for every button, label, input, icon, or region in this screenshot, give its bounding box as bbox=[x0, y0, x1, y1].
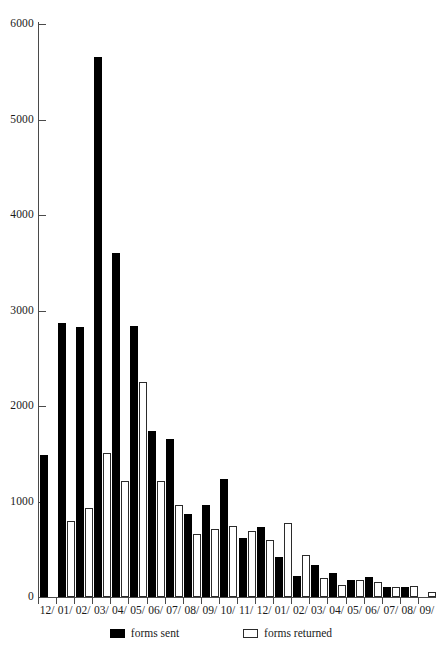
bar-forms-sent bbox=[94, 57, 102, 597]
bar-forms-returned bbox=[410, 586, 418, 597]
bar-forms-sent bbox=[112, 253, 120, 597]
y-axis-tick-label: 6000 bbox=[0, 18, 34, 30]
bar-forms-returned bbox=[229, 526, 237, 597]
bar-forms-sent bbox=[202, 505, 210, 597]
legend-swatch-icon-forms-returned bbox=[243, 629, 258, 638]
legend-swatch-icon-forms-sent bbox=[110, 629, 125, 638]
bar-forms-returned bbox=[157, 481, 165, 597]
bar-forms-returned bbox=[320, 578, 328, 597]
bar-forms-sent bbox=[239, 538, 247, 597]
bar-forms-sent bbox=[293, 576, 301, 597]
y-axis-tick bbox=[39, 597, 46, 598]
bar-forms-returned bbox=[374, 582, 382, 597]
bar-chart: 0100020003000400050006000 12/01/02/03/04… bbox=[0, 0, 442, 646]
bar-forms-returned bbox=[85, 508, 93, 597]
y-axis-tick-label: 0 bbox=[0, 591, 34, 603]
bar-forms-returned bbox=[428, 592, 436, 597]
bar-forms-sent bbox=[130, 326, 138, 597]
bar-forms-sent bbox=[383, 587, 391, 597]
bar-forms-sent bbox=[148, 431, 156, 597]
legend-entry-forms-sent: forms sent bbox=[110, 627, 179, 639]
x-axis-tick-label: 09/ bbox=[410, 604, 442, 617]
y-axis-tick-label: 2000 bbox=[0, 400, 34, 412]
bar-forms-returned bbox=[356, 580, 364, 597]
bar-forms-returned bbox=[248, 531, 256, 597]
bar-forms-sent bbox=[40, 455, 48, 597]
bar-forms-sent bbox=[76, 327, 84, 597]
bar-forms-returned bbox=[392, 587, 400, 598]
bar-forms-sent bbox=[401, 587, 409, 598]
bar-forms-sent bbox=[311, 565, 319, 597]
y-axis-tick-label: 4000 bbox=[0, 209, 34, 221]
bar-forms-returned bbox=[139, 382, 147, 597]
bar-forms-returned bbox=[302, 555, 310, 597]
bar-forms-returned bbox=[211, 529, 219, 597]
bar-forms-returned bbox=[338, 585, 346, 597]
bar-forms-sent bbox=[58, 323, 66, 597]
bar-forms-sent bbox=[347, 580, 355, 597]
legend-label-forms-returned: forms returned bbox=[264, 627, 332, 639]
y-axis-tick-label: 3000 bbox=[0, 305, 34, 317]
legend-entry-forms-returned: forms returned bbox=[243, 627, 332, 639]
y-axis-tick-label: 1000 bbox=[0, 496, 34, 508]
bar-forms-returned bbox=[67, 521, 75, 597]
legend-label-forms-sent: forms sent bbox=[131, 627, 179, 639]
bar-forms-returned bbox=[193, 534, 201, 597]
y-axis-tick-label: 5000 bbox=[0, 114, 34, 126]
chart-legend: forms sent forms returned bbox=[0, 624, 442, 642]
bar-forms-returned bbox=[266, 540, 274, 597]
bar-forms-sent bbox=[275, 557, 283, 597]
bar-forms-sent bbox=[365, 577, 373, 597]
bar-forms-returned bbox=[121, 481, 129, 598]
bar-forms-returned bbox=[284, 523, 292, 597]
bar-forms-sent bbox=[329, 573, 337, 597]
bar-forms-sent bbox=[184, 514, 192, 597]
bar-forms-sent bbox=[257, 527, 265, 597]
bar-forms-sent bbox=[166, 439, 174, 597]
bar-forms-sent bbox=[220, 479, 228, 597]
bar-forms-returned bbox=[103, 453, 111, 597]
plot-area bbox=[38, 24, 436, 597]
bar-forms-returned bbox=[175, 505, 183, 597]
